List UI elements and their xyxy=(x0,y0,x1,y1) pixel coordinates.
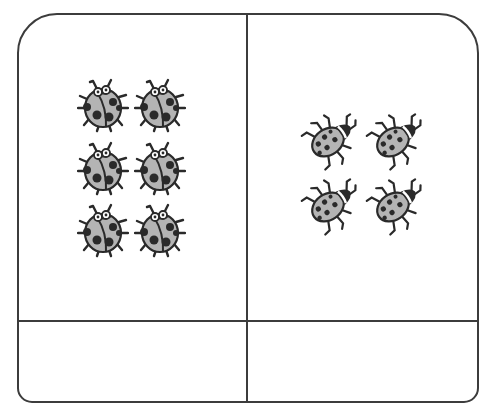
answer-box-right[interactable] xyxy=(248,322,475,399)
answer-box-left[interactable] xyxy=(19,322,246,399)
ladybug-icon xyxy=(134,202,186,258)
ladybug-side-icon xyxy=(297,111,359,173)
ladybug-icon xyxy=(134,140,186,196)
cell-top-left-ladybugs xyxy=(19,15,246,320)
ladybug-icon xyxy=(134,77,186,133)
ladybug-icon xyxy=(77,77,129,133)
ladybug-side-icon xyxy=(362,111,424,173)
ladybug-side-icon xyxy=(297,176,359,238)
ladybug-icon xyxy=(77,202,129,258)
ladybug-icon xyxy=(77,140,129,196)
ladybug-side-icon xyxy=(362,176,424,238)
